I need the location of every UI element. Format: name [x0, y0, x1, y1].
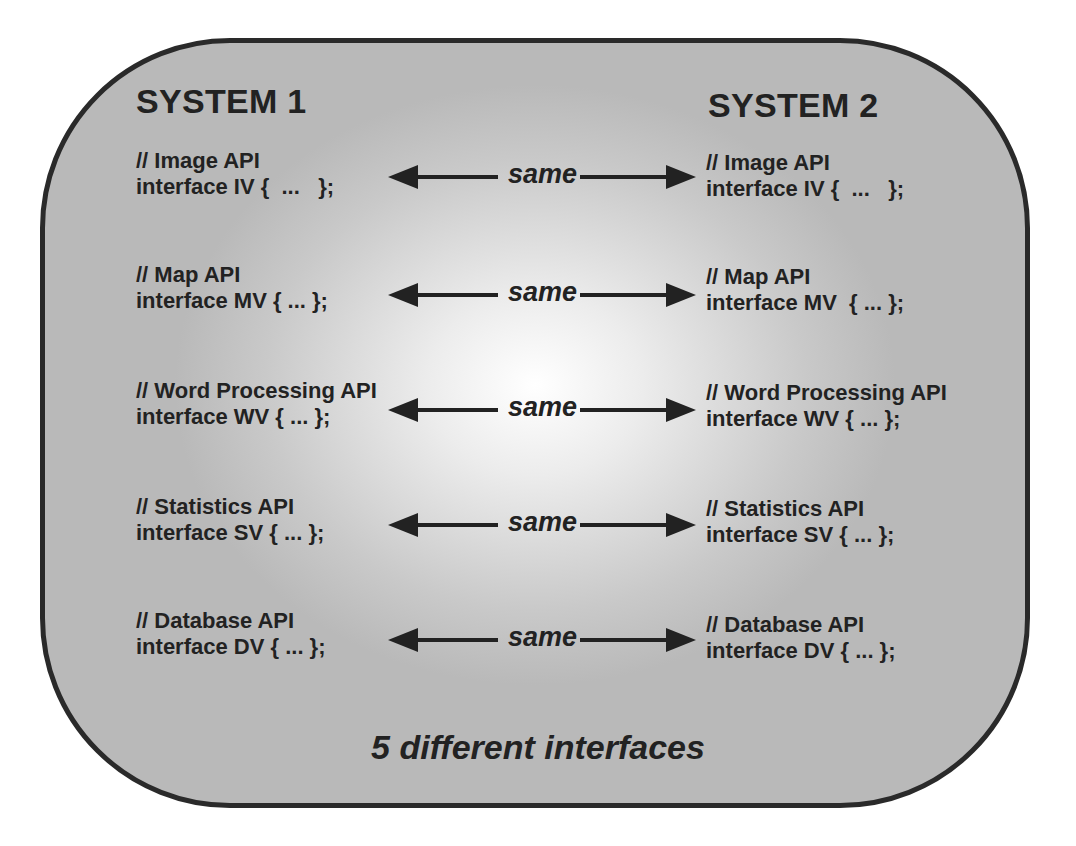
- comment: // Map API: [136, 262, 240, 287]
- arrow-right-icon: [666, 283, 696, 307]
- comment: // Image API: [706, 150, 830, 175]
- system-2-heading: SYSTEM 2: [708, 86, 879, 125]
- arrow-line: [414, 293, 498, 297]
- same-connector: same: [388, 510, 696, 540]
- connector-label: same: [508, 159, 577, 190]
- arrow-right-icon: [666, 165, 696, 189]
- interface-code: interface IV { ... };: [706, 176, 904, 201]
- comment: // Word Processing API: [136, 378, 377, 403]
- arrow-line: [580, 638, 670, 642]
- arrow-line: [580, 293, 670, 297]
- interface-code: interface DV { ... };: [136, 634, 326, 659]
- comment: // Image API: [136, 148, 260, 173]
- system-1-database-api: // Database API interface DV { ... };: [136, 608, 326, 660]
- arrow-line: [580, 175, 670, 179]
- arrow-right-icon: [666, 398, 696, 422]
- system-2-image-api: // Image API interface IV { ... };: [706, 150, 904, 202]
- footer-caption: 5 different interfaces: [0, 728, 1076, 767]
- system-1-map-api: // Map API interface MV { ... };: [136, 262, 328, 314]
- arrow-line: [414, 175, 498, 179]
- comment: // Statistics API: [136, 494, 294, 519]
- system-1-image-api: // Image API interface IV { ... };: [136, 148, 334, 200]
- comment: // Database API: [706, 612, 864, 637]
- interface-code: interface MV { ... };: [136, 288, 328, 313]
- interface-code: interface IV { ... };: [136, 174, 334, 199]
- arrow-line: [580, 523, 670, 527]
- interface-code: interface WV { ... };: [136, 404, 330, 429]
- arrow-line: [414, 638, 498, 642]
- comment: // Word Processing API: [706, 380, 947, 405]
- system-1-heading: SYSTEM 1: [136, 82, 307, 121]
- system-2-database-api: // Database API interface DV { ... };: [706, 612, 896, 664]
- connector-label: same: [508, 507, 577, 538]
- connector-label: same: [508, 622, 577, 653]
- arrow-line: [580, 408, 670, 412]
- connector-label: same: [508, 392, 577, 423]
- interface-code: interface SV { ... };: [706, 522, 894, 547]
- connector-label: same: [508, 277, 577, 308]
- system-2-map-api: // Map API interface MV { ... };: [706, 264, 904, 316]
- arrow-line: [414, 523, 498, 527]
- arrow-line: [414, 408, 498, 412]
- comment: // Statistics API: [706, 496, 864, 521]
- comment: // Database API: [136, 608, 294, 633]
- interface-code: interface DV { ... };: [706, 638, 896, 663]
- arrow-right-icon: [666, 628, 696, 652]
- system-2-statistics-api: // Statistics API interface SV { ... };: [706, 496, 894, 548]
- interface-code: interface WV { ... };: [706, 406, 900, 431]
- system-1-word-processing-api: // Word Processing API interface WV { ..…: [136, 378, 377, 430]
- interface-code: interface MV { ... };: [706, 290, 904, 315]
- system-1-statistics-api: // Statistics API interface SV { ... };: [136, 494, 324, 546]
- same-connector: same: [388, 395, 696, 425]
- arrow-right-icon: [666, 513, 696, 537]
- interface-code: interface SV { ... };: [136, 520, 324, 545]
- same-connector: same: [388, 162, 696, 192]
- same-connector: same: [388, 625, 696, 655]
- comment: // Map API: [706, 264, 810, 289]
- same-connector: same: [388, 280, 696, 310]
- system-2-word-processing-api: // Word Processing API interface WV { ..…: [706, 380, 947, 432]
